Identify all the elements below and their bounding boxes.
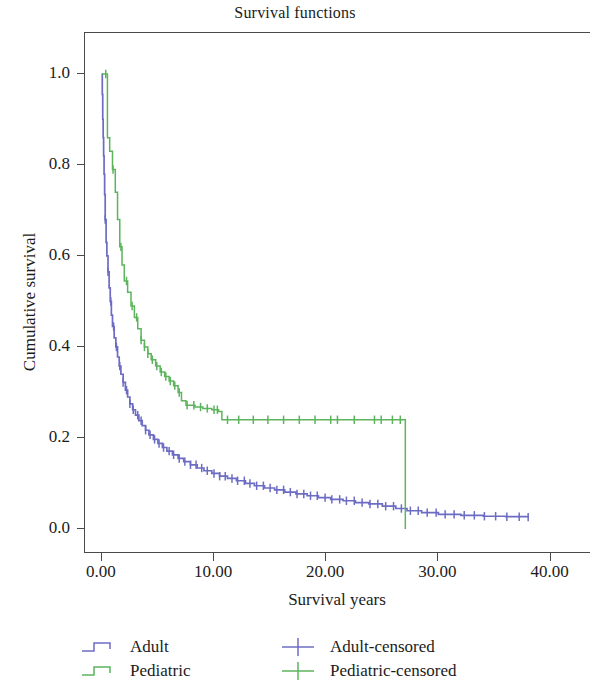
series-line-pediatric (102, 74, 405, 529)
step-line-icon (80, 635, 124, 659)
y-tick-mark (77, 164, 84, 165)
x-tick-label: 20.00 (280, 562, 370, 582)
legend-label: Pediatric (130, 659, 190, 683)
x-tick-label: 40.00 (505, 562, 590, 582)
y-tick-label: 0.2 (18, 427, 70, 447)
series-pediatric (102, 70, 405, 529)
series-line-adult (102, 74, 528, 517)
legend-label: Adult-censored (330, 635, 435, 659)
y-tick-label: 0.8 (18, 154, 70, 174)
x-axis-title: Survival years (84, 590, 590, 610)
y-tick-label: 0.0 (18, 518, 70, 538)
y-tick-mark (77, 73, 84, 74)
y-tick-mark (77, 346, 84, 347)
censored-marks-pediatric (106, 70, 401, 424)
plot-svg (85, 33, 590, 554)
series-adult (102, 74, 528, 521)
step-line-icon (80, 659, 124, 683)
plus-mark-icon (280, 635, 324, 659)
survival-functions-figure: Survival functions Cumulative survival 0… (0, 0, 590, 684)
legend-label: Adult (130, 635, 169, 659)
x-tick-mark (101, 553, 102, 561)
x-tick-label: 30.00 (392, 562, 482, 582)
y-tick-label: 0.4 (18, 336, 70, 356)
censored-marks-adult (105, 215, 528, 521)
y-tick-mark (77, 255, 84, 256)
chart-title: Survival functions (0, 4, 590, 22)
plus-mark-icon (280, 659, 324, 683)
x-tick-label: 0.00 (56, 562, 146, 582)
x-tick-mark (437, 553, 438, 561)
x-tick-label: 10.00 (168, 562, 258, 582)
x-tick-mark (325, 553, 326, 561)
x-tick-mark (213, 553, 214, 561)
y-tick-label: 1.0 (18, 63, 70, 83)
y-tick-mark (77, 437, 84, 438)
legend-label: Pediatric-censored (330, 659, 457, 683)
chart-legend: AdultPediatricAdult-censoredPediatric-ce… (70, 635, 590, 683)
plot-area (84, 32, 590, 553)
y-tick-label: 0.6 (18, 245, 70, 265)
x-tick-mark (550, 553, 551, 561)
y-tick-mark (77, 528, 84, 529)
